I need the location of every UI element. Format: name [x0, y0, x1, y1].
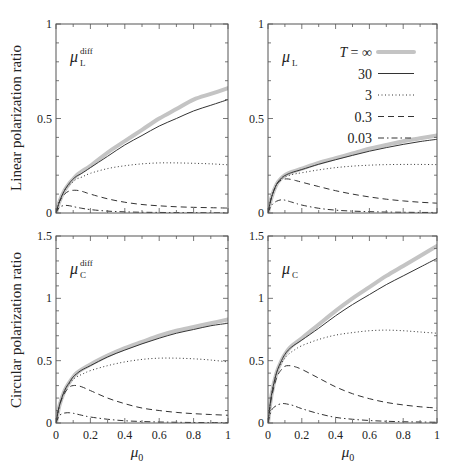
series-line-dashed: [268, 179, 437, 213]
legend-label: 30: [358, 67, 372, 82]
x-axis-title-sub: 0: [349, 452, 354, 463]
x-tick-label: 0.2: [294, 428, 309, 442]
panel-top-left: 00.51μLdiff: [37, 17, 228, 220]
legend-entry: 30: [358, 67, 414, 82]
y-tick-label: 1: [46, 291, 52, 305]
series-line-thick-gray: [268, 136, 437, 213]
series-line-thick-gray: [56, 320, 228, 423]
x-tick-label: 0.4: [328, 428, 343, 442]
series-line-thick-gray: [56, 88, 228, 213]
series-group: [268, 136, 437, 213]
panel-label-sub: C: [292, 270, 298, 280]
svg-text:μ0: μ0: [341, 444, 355, 463]
axes-frame: [268, 236, 437, 423]
svg-text:μ0: μ0: [130, 444, 144, 463]
legend-entry: 3: [365, 88, 414, 103]
x-tick-label: 0: [265, 428, 271, 442]
x-tick-label: 0.6: [362, 428, 377, 442]
y-tick-label: 0.5: [249, 112, 264, 126]
legend-label: 0.03: [348, 131, 373, 146]
x-tick-label: 0.8: [396, 428, 411, 442]
series-line-solid: [268, 139, 437, 213]
x-axis-title-right: μ0: [341, 444, 355, 463]
panel-label: μ: [281, 48, 290, 66]
panel-label-sup: diff: [80, 46, 93, 56]
legend-entry: 0.3: [355, 110, 415, 125]
figure: 00.51μLdiff00.51μL00.511.500.20.40.60.81…: [0, 0, 457, 469]
y-tick-label: 0.5: [37, 354, 52, 368]
series-line-solid: [268, 258, 437, 423]
x-tick-label: 1: [225, 428, 231, 442]
legend-label: 0.3: [355, 110, 373, 125]
y-axis-title-linear: Linear polarization ratio: [8, 45, 24, 191]
legend-label: T = ∞: [340, 45, 372, 60]
x-tick-label: 0.6: [152, 428, 167, 442]
legend-entry: T = ∞: [340, 45, 414, 60]
x-tick-label: 0: [53, 428, 59, 442]
series-group: [56, 320, 228, 423]
y-axis-title-circular: Circular polarization ratio: [8, 252, 24, 408]
y-tick-label: 1: [258, 291, 264, 305]
series-line-solid: [56, 100, 228, 213]
y-tick-label: 1: [258, 17, 264, 31]
x-axis-title-left: μ0: [130, 444, 144, 463]
legend-symbol: T: [340, 45, 351, 60]
panel-bottom-left: 00.511.500.20.40.60.81μCdiff: [37, 229, 231, 442]
panel-label: μ: [69, 260, 78, 278]
series-group: [56, 88, 228, 213]
y-tick-label: 1.5: [249, 229, 264, 243]
series-line-dashed: [268, 366, 437, 423]
panel-label: μ: [281, 260, 290, 278]
series-line-dashed: [56, 385, 228, 423]
y-tick-label: 1.5: [37, 229, 52, 243]
y-tick-label: 1: [46, 17, 52, 31]
y-tick-label: 0: [258, 416, 264, 430]
x-tick-label: 1: [434, 428, 440, 442]
y-tick-label: 0: [46, 206, 52, 220]
y-tick-label: 0: [258, 206, 264, 220]
x-tick-label: 0.4: [117, 428, 132, 442]
y-tick-label: 0.5: [249, 354, 264, 368]
legend: T = ∞3030.30.03: [340, 45, 414, 146]
panel-label-sup: diff: [80, 258, 93, 268]
x-axis-title-sub: 0: [138, 452, 143, 463]
panel-label-sub: L: [80, 58, 86, 68]
panel-label-sub: C: [80, 270, 86, 280]
x-tick-label: 0.2: [83, 428, 98, 442]
panels: 00.51μLdiff00.51μL00.511.500.20.40.60.81…: [37, 17, 440, 442]
series-line-dashed: [56, 190, 228, 213]
legend-label: 3: [365, 88, 372, 103]
x-tick-label: 0.8: [186, 428, 201, 442]
y-tick-label: 0: [46, 416, 52, 430]
panel-bottom-right: 00.511.500.20.40.60.81μC: [249, 229, 440, 442]
y-tick-label: 0.5: [37, 112, 52, 126]
panel-label-sub: L: [292, 58, 298, 68]
panel-label: μ: [69, 48, 78, 66]
